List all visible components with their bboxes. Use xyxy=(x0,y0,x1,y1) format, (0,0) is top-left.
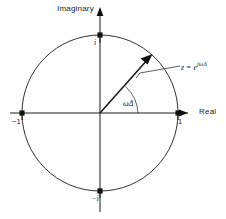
phasor-vector-arrowhead xyxy=(141,54,153,65)
point-expression-exponent: jωΔ xyxy=(197,60,207,67)
tick-label-imaginary-positive-i: i xyxy=(94,39,96,47)
tick-label-real-negative-one: −1 xyxy=(12,118,21,126)
imaginary-axis-label: Imaginary xyxy=(57,5,94,13)
angle-annotation-label: ωΔ xyxy=(123,100,133,108)
point-expression-base: z = e xyxy=(181,63,197,72)
real-axis-label: Real xyxy=(199,108,216,116)
unit-circle-figure: Imaginary Real −1 1 i −i ωΔ z = ejωΔ xyxy=(0,0,226,219)
annotation-leader-line xyxy=(140,66,180,73)
point-expression-label: z = ejωΔ xyxy=(181,61,207,72)
annotation-leader-tick xyxy=(136,73,140,78)
figure-canvas xyxy=(0,0,226,219)
tick-label-real-positive-one: 1 xyxy=(178,118,182,126)
imaginary-axis-arrowhead xyxy=(97,7,104,16)
tick-label-imaginary-negative-i: −i xyxy=(91,195,99,203)
